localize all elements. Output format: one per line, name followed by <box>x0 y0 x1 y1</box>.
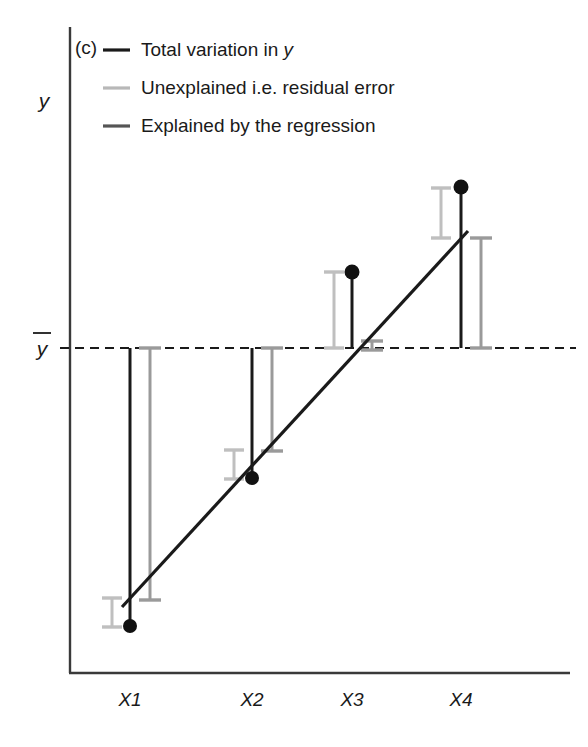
data-point-x2 <box>245 471 259 485</box>
regression-variance-figure: y y (c) X1 X2 X3 X4 Total variation in y… <box>0 0 588 747</box>
y-mean-label: y <box>35 337 49 360</box>
data-point-x3 <box>345 265 360 280</box>
data-point-x4 <box>454 180 469 195</box>
chart-svg: y y (c) X1 X2 X3 X4 Total variation in y… <box>0 0 588 747</box>
x-tick-label-x2: X2 <box>239 689 264 710</box>
legend-label-explained: Explained by the regression <box>141 115 375 136</box>
data-point-x1 <box>123 619 137 633</box>
y-axis-label: y <box>37 89 51 112</box>
x-tick-label-x1: X1 <box>117 689 141 710</box>
x-tick-label-x3: X3 <box>339 689 364 710</box>
legend-item-explained: Explained by the regression <box>103 115 375 136</box>
panel-label: (c) <box>75 37 97 58</box>
legend-item-unexplained: Unexplained i.e. residual error <box>103 77 395 98</box>
legend-label-total: Total variation in y <box>141 39 295 60</box>
legend-label-unexplained: Unexplained i.e. residual error <box>141 77 395 98</box>
x-tick-label-x4: X4 <box>448 689 472 710</box>
chart-background <box>0 0 588 747</box>
